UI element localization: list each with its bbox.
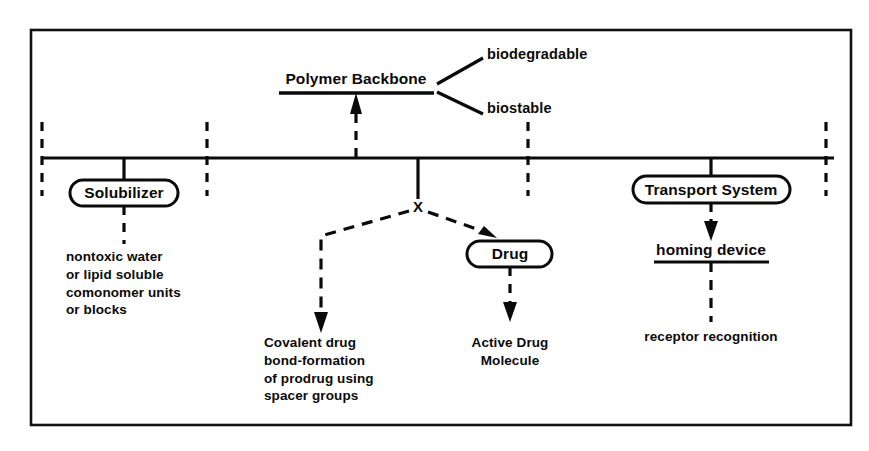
biostable-label: biostable <box>487 100 552 117</box>
prodrug-description: Covalent drug bond-formation of prodrug … <box>264 334 374 405</box>
active-drug-arrow-head <box>503 302 517 322</box>
homing-device-arrow-head <box>704 221 718 241</box>
figure-border <box>31 30 851 425</box>
prodrug-branch-path <box>321 211 409 318</box>
drug-branch-arrow-head <box>478 226 497 238</box>
solubilizer-label: Solubilizer <box>84 184 163 202</box>
drug-label: Drug <box>492 245 529 263</box>
prodrug-arrow-head <box>314 312 328 333</box>
receptor-recognition-label: receptor recognition <box>644 328 777 346</box>
biostable-branch-line <box>437 92 483 114</box>
drug-branch-path <box>428 212 488 233</box>
biodegradable-label: biodegradable <box>487 46 587 63</box>
homing-device-label: homing device <box>656 241 766 259</box>
polymer-backbone-label: Polymer Backbone <box>285 70 426 88</box>
backbone-arrow-head <box>350 93 362 114</box>
transport-system-label: Transport System <box>645 181 778 199</box>
solubilizer-description: nontoxic water or lipid soluble comonome… <box>66 248 181 319</box>
x-junction-label: X <box>413 198 423 216</box>
biodegradable-branch-line <box>437 58 483 84</box>
diagram-canvas: Polymer Backbone biodegradable biostable… <box>0 0 869 451</box>
diagram-vector-layer <box>0 0 869 451</box>
active-drug-description: Active Drug Molecule <box>472 334 549 370</box>
